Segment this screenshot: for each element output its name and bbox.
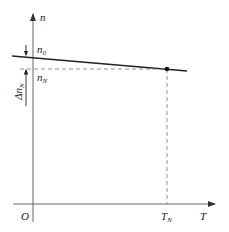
origin-label: O	[21, 210, 29, 222]
operating-point	[165, 67, 170, 72]
x-axis-label: T	[200, 210, 207, 222]
TN-label: TN	[161, 210, 172, 224]
n0-label: n0	[37, 43, 47, 57]
delta-nN-label: ΔnN	[12, 83, 26, 101]
nN-label: nN	[37, 71, 48, 85]
y-axis-label: n	[40, 11, 46, 23]
speed-temperature-diagram: n T O n0 nN TN ΔnN	[0, 0, 229, 232]
